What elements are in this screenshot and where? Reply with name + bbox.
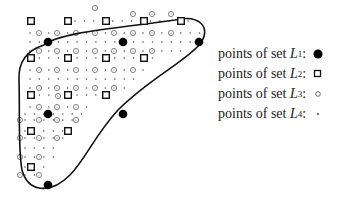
legend-item-l1: points of set L1: xyxy=(218,44,324,64)
l4-point xyxy=(39,78,41,80)
l4-point xyxy=(76,41,78,43)
l4-point xyxy=(121,20,123,22)
l2-point xyxy=(28,92,35,99)
l4-point xyxy=(152,41,154,43)
l3-point-center xyxy=(38,174,39,175)
l3-point-center xyxy=(56,87,57,88)
l4-point xyxy=(24,113,26,115)
l4-point xyxy=(62,130,64,132)
l3-point-center xyxy=(56,69,57,70)
l4-point xyxy=(123,50,125,52)
l4-point xyxy=(24,147,26,149)
l3-point-center xyxy=(75,87,76,88)
l4-point xyxy=(86,41,88,43)
l3-point-center xyxy=(94,50,95,51)
l4-point xyxy=(189,41,191,43)
l4-point xyxy=(95,94,97,96)
l4-point xyxy=(58,78,60,80)
l4-point xyxy=(180,50,182,52)
l4-point xyxy=(53,147,55,149)
l2-point xyxy=(103,55,110,62)
legend-var: L xyxy=(290,104,298,124)
l4-point xyxy=(95,41,97,43)
l4-point xyxy=(24,130,26,132)
l3-point-center xyxy=(56,32,57,33)
l4-point xyxy=(86,94,88,96)
l4-point xyxy=(114,41,116,43)
l2-point xyxy=(141,18,148,25)
l4-point xyxy=(123,69,125,71)
legend-colon: : xyxy=(302,44,306,64)
l4-point xyxy=(58,57,60,59)
l4-point xyxy=(29,87,31,89)
l2-point xyxy=(65,55,72,62)
l4-point xyxy=(86,50,88,52)
l3-point-center xyxy=(56,50,57,51)
l4-point xyxy=(180,41,182,43)
l4-point xyxy=(48,32,50,34)
legend-colon: : xyxy=(302,84,306,104)
l4-point xyxy=(171,41,173,43)
l4-point xyxy=(29,32,31,34)
l4-point xyxy=(29,78,31,80)
l2-point xyxy=(65,128,72,135)
l4-point xyxy=(123,32,125,34)
l3-point-center xyxy=(38,32,39,33)
l4-point xyxy=(67,87,69,89)
l3-point-center xyxy=(38,87,39,88)
l4-point xyxy=(67,106,69,108)
l3-point-center xyxy=(75,69,76,70)
l2-point xyxy=(28,128,35,135)
l4-point xyxy=(24,119,26,121)
l3-point-center xyxy=(132,13,133,14)
l4-point xyxy=(105,50,107,52)
l3-point-center xyxy=(170,13,171,14)
l4-point xyxy=(43,156,45,158)
l4-point xyxy=(114,57,116,59)
l3-point-center xyxy=(38,106,39,107)
l3-point-center xyxy=(113,50,114,51)
l2-point xyxy=(28,18,35,25)
l4-point xyxy=(76,57,78,59)
l4-point xyxy=(67,78,69,80)
legend-var: L xyxy=(290,44,298,64)
l3-point-center xyxy=(132,32,133,33)
l1-point xyxy=(44,181,53,190)
l4-point xyxy=(95,78,97,80)
l4-point xyxy=(161,50,163,52)
l3-point-center xyxy=(19,174,20,175)
l4-point xyxy=(189,32,191,34)
l3-point-center xyxy=(57,95,58,96)
l4-point xyxy=(86,106,88,108)
l4-point xyxy=(161,32,163,34)
l4-point xyxy=(48,57,50,59)
l4-point xyxy=(142,69,144,71)
l4-point xyxy=(152,57,154,59)
legend-label-prefix: points of set xyxy=(218,44,286,64)
l4-point xyxy=(58,41,60,43)
l4-point xyxy=(171,50,173,52)
l4-point xyxy=(39,57,41,59)
l4-point xyxy=(53,119,55,121)
l4-point xyxy=(62,137,64,139)
l4-point xyxy=(29,69,31,71)
l3-point-center xyxy=(113,87,114,88)
legend-colon: : xyxy=(302,64,306,84)
l4-point xyxy=(131,20,133,22)
l4-point xyxy=(62,113,64,115)
l3-point-center xyxy=(151,32,152,33)
l4-point xyxy=(29,41,31,43)
l4-point xyxy=(24,156,26,158)
l4-point xyxy=(133,41,135,43)
l3-point-center xyxy=(132,50,133,51)
l2-point xyxy=(65,18,72,25)
l4-point xyxy=(133,57,135,59)
l2-point xyxy=(28,164,35,171)
l1-point xyxy=(44,38,53,47)
legend-label-prefix: points of set xyxy=(218,64,286,84)
l4-point xyxy=(39,41,41,43)
l4-point xyxy=(105,78,107,80)
l3-point-center xyxy=(38,50,39,51)
l4-point xyxy=(112,20,114,22)
l3-point-center xyxy=(94,32,95,33)
